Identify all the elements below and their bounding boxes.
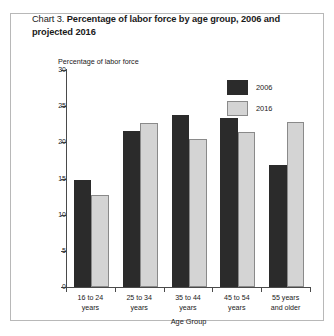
x-axis-category-label-line: 16 to 24 [66,294,115,304]
bar-2006-35-to-44-years[interactable] [172,115,190,287]
x-axis-category-label: 35 to 44years [164,294,213,313]
bar-2016-16-to-24-years[interactable] [91,195,109,287]
legend-swatch-2006 [227,80,248,95]
bar-2006-55-years-and-older[interactable] [269,165,287,287]
x-axis-tick-mark [212,288,213,292]
x-axis-category-label: 45 to 54years [212,294,261,313]
bar-2006-45-to-54-years[interactable] [220,118,238,287]
y-axis-tick-label: 15 [48,175,66,182]
y-axis-tick-label: 25 [48,102,66,109]
legend-label-2006: 2006 [256,83,272,92]
x-axis-tick-mark [261,288,262,292]
x-axis-line [66,287,311,288]
x-axis-category-label: 25 to 34years [115,294,164,313]
bar-2016-55-years-and-older[interactable] [287,122,305,287]
chart-number-label: Chart 3. [32,14,64,24]
y-axis-tick-label: 10 [48,211,66,218]
y-axis-tick-label-wrap: 10 [40,215,66,216]
y-axis-tick-label-wrap: 30 [40,70,66,71]
bar-2016-35-to-44-years[interactable] [189,139,207,287]
y-axis-tick-label-wrap: 25 [40,106,66,107]
legend-label-2016: 2016 [256,104,272,113]
bar-2006-16-to-24-years[interactable] [74,180,92,287]
y-axis-tick-label-wrap: 20 [40,142,66,143]
y-axis-title: Percentage of labor force [58,57,139,66]
legend-item-2016[interactable]: 2016 [227,101,272,116]
x-axis-title: Age Group [66,317,311,326]
x-axis-category-label-line: 25 to 34 [115,294,164,304]
plot-area [66,70,310,287]
x-axis-tick-mark [164,288,165,292]
x-axis-tick-mark [310,288,311,292]
x-axis-category-label: 55 yearsand older [261,294,310,313]
x-axis-category-label-line: 45 to 54 [212,294,261,304]
y-axis-tick-label: 0 [48,283,66,290]
x-axis-category-label-line: 55 years [261,294,310,304]
y-axis-tick-label-wrap: 15 [40,179,66,180]
page-title: Chart 3. Percentage of labor force by ag… [32,13,284,38]
legend-swatch-2016 [227,101,248,116]
y-axis-tick-label: 30 [48,66,66,73]
y-axis-tick-label: 5 [48,247,66,254]
chart-title-text: Percentage of labor force by age group, … [32,14,280,37]
x-axis-category-label-line: years [212,304,261,314]
x-axis-tick-mark [115,288,116,292]
x-axis-category-label-line: years [164,304,213,314]
x-axis-category-label-line: 35 to 44 [164,294,213,304]
legend-item-2006[interactable]: 2006 [227,80,272,95]
y-axis-tick-label-wrap: 0 [40,287,66,288]
bar-2006-25-to-34-years[interactable] [123,131,141,287]
x-axis-category-label-line: and older [261,304,310,314]
chart-legend: 2006 2016 [227,80,272,122]
x-axis-category-label: 16 to 24years [66,294,115,313]
bar-2016-25-to-34-years[interactable] [140,123,158,287]
y-axis-tick-label-wrap: 5 [40,251,66,252]
x-axis-tick-mark [66,288,67,292]
bar-2016-45-to-54-years[interactable] [238,132,256,287]
x-axis-category-label-line: years [66,304,115,314]
x-axis-category-label-line: years [115,304,164,314]
y-axis-tick-label: 20 [48,138,66,145]
